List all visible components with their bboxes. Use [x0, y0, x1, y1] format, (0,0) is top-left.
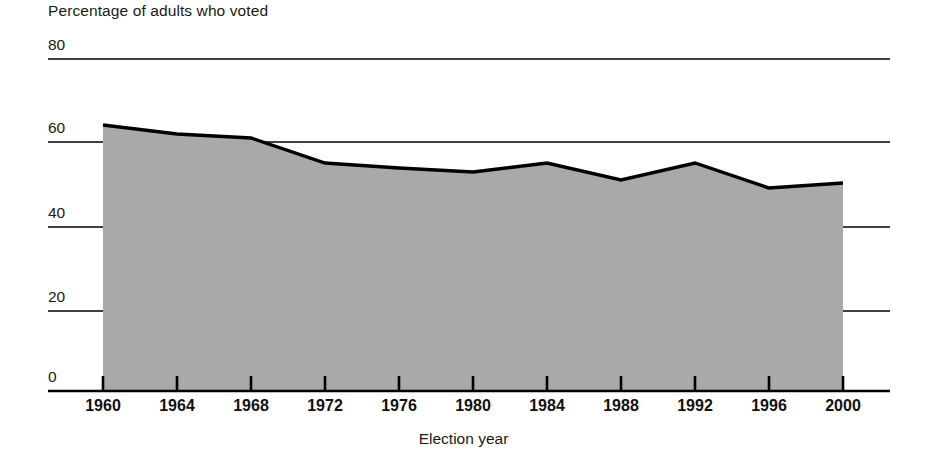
x-tick-label-1972: 1972	[307, 397, 343, 415]
x-tick-label-1976: 1976	[381, 397, 417, 415]
x-tick-label-1988: 1988	[603, 397, 639, 415]
y-tick-label-40: 40	[48, 204, 65, 222]
area-fill	[103, 125, 843, 390]
x-tick-label-1968: 1968	[233, 397, 269, 415]
x-tick-label-1984: 1984	[529, 397, 565, 415]
y-tick-label-20: 20	[48, 288, 65, 306]
x-tick-label-1992: 1992	[677, 397, 713, 415]
x-tick-label-1980: 1980	[455, 397, 491, 415]
x-tick-label-1996: 1996	[751, 397, 787, 415]
x-tick-label-1964: 1964	[159, 397, 195, 415]
x-tick-label-2000: 2000	[825, 397, 861, 415]
y-tick-label-60: 60	[48, 119, 65, 137]
plot-area	[0, 0, 927, 458]
x-axis-title: Election year	[0, 430, 927, 448]
y-tick-label-80: 80	[48, 36, 65, 54]
y-tick-label-0: 0	[48, 368, 57, 386]
x-tick-label-1960: 1960	[85, 397, 121, 415]
voter-turnout-area-chart: Percentage of adults who voted	[0, 0, 927, 458]
